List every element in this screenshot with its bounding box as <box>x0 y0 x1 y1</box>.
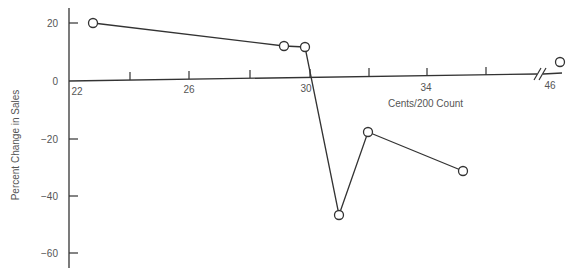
data-point <box>301 43 310 52</box>
data-point <box>459 167 468 176</box>
x-axis-title: Cents/200 Count <box>388 98 463 109</box>
data-line <box>93 23 463 215</box>
x-axis <box>69 74 537 81</box>
data-point <box>280 42 289 51</box>
x-tick-label: 46 <box>544 80 556 91</box>
y-tick-label: −20 <box>41 134 58 145</box>
x-tick-label: 34 <box>420 82 432 93</box>
y-tick-label: 0 <box>52 76 58 87</box>
chart: 20 0 −20 −40 −60 Percent Change in Sales… <box>0 0 575 280</box>
y-tick-label: −60 <box>41 248 58 259</box>
x-tick-label: 30 <box>300 83 312 94</box>
x-tick-label: 22 <box>71 86 83 97</box>
isolated-data-point <box>556 58 565 67</box>
data-points <box>89 19 565 220</box>
y-tick-label: −40 <box>41 191 58 202</box>
y-ticks <box>69 23 78 253</box>
data-point <box>89 19 98 28</box>
data-point <box>335 211 344 220</box>
x-tick-label: 26 <box>183 84 195 95</box>
data-point <box>364 128 373 137</box>
y-tick-label: 20 <box>47 18 59 29</box>
x-axis-after-break <box>543 73 562 74</box>
y-axis-title: Percent Change in Sales <box>10 90 21 201</box>
